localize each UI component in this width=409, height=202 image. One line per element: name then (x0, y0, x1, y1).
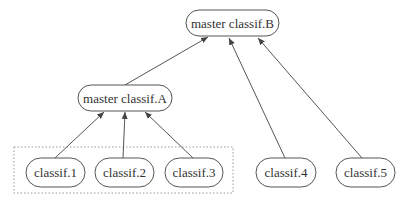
hierarchy-diagram: master classif.Bmaster classif.Aclassif.… (0, 0, 409, 202)
edge-c5-to-B (258, 38, 362, 158)
node-label: classif.4 (265, 165, 308, 180)
edge-c3-to-A (145, 112, 193, 158)
node-label: classif.1 (34, 165, 77, 180)
edge-c2-to-A (123, 112, 125, 158)
node-c2: classif.2 (95, 158, 154, 187)
node-B: master classif.B (186, 10, 279, 36)
edge-A-to-B (125, 37, 208, 85)
edge-c4-to-B (229, 38, 285, 158)
node-label: master classif.A (83, 91, 167, 106)
node-label: classif.3 (173, 165, 216, 180)
node-label: classif.5 (344, 165, 387, 180)
node-A: master classif.A (78, 85, 172, 111)
nodes: master classif.Bmaster classif.Aclassif.… (26, 10, 395, 187)
node-label: classif.2 (103, 165, 146, 180)
node-label: master classif.B (191, 16, 274, 31)
node-c4: classif.4 (256, 158, 316, 187)
node-c5: classif.5 (336, 158, 395, 187)
edge-c1-to-A (55, 112, 104, 158)
node-c3: classif.3 (165, 158, 223, 187)
node-c1: classif.1 (26, 158, 85, 187)
